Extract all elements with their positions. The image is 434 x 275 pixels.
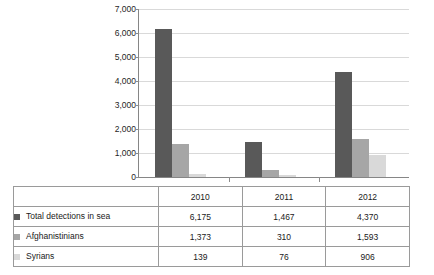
legend-entry-1: Total detections in sea: [14, 207, 159, 227]
bar-2011-series1: [245, 142, 262, 177]
y-axis-tick-label: 6,000: [88, 29, 136, 38]
table-corner-cell: [14, 187, 159, 207]
table-cell: 1,467: [242, 207, 326, 227]
table-body: Total detections in sea6,1751,4674,370Af…: [14, 207, 410, 267]
legend-swatch-icon: [14, 254, 20, 260]
table-column-header-2011: 2011: [242, 187, 326, 207]
bar-2010-series3: [189, 174, 206, 177]
y-axis-tick-label: 2,000: [88, 125, 136, 134]
table-cell: 1,373: [158, 227, 242, 247]
legend-entry-3: Syrians: [14, 247, 159, 267]
table-cell: 310: [242, 227, 326, 247]
bar-group-2010: [139, 9, 229, 177]
bar-2012-series2: [352, 139, 369, 177]
table-column-header-2012: 2012: [326, 187, 410, 207]
category-separator: [319, 177, 320, 182]
table-column-header-2010: 2010: [158, 187, 242, 207]
bar-2010-series2: [172, 144, 189, 177]
chart-figure: 01,0002,0003,0004,0005,0006,0007,000 201…: [0, 0, 434, 275]
bar-2011-series2: [262, 170, 279, 177]
legend-swatch-icon: [14, 214, 20, 220]
legend-label: Afghanistinians: [26, 231, 84, 241]
bar-2012-series3: [369, 155, 386, 177]
legend-swatch-icon: [14, 234, 20, 240]
category-separator: [229, 177, 230, 182]
table-row: Syrians13976906: [14, 247, 410, 267]
y-axis-tick-label: 5,000: [88, 53, 136, 62]
y-axis-tick-label: 0: [88, 173, 136, 182]
bar-group-2011: [229, 9, 319, 177]
legend-entry-2: Afghanistinians: [14, 227, 159, 247]
bar-2011-series3: [279, 175, 296, 177]
bar-2012-series1: [335, 72, 352, 177]
y-axis-tick-label: 1,000: [88, 149, 136, 158]
table-row: Total detections in sea6,1751,4674,370: [14, 207, 410, 227]
plot-area: [138, 9, 409, 178]
table-cell: 6,175: [158, 207, 242, 227]
table-cell: 139: [158, 247, 242, 267]
y-axis-tick-label: 3,000: [88, 101, 136, 110]
legend-label: Syrians: [26, 251, 54, 261]
table-cell: 4,370: [326, 207, 410, 227]
table-cell: 1,593: [326, 227, 410, 247]
table-header-row: 201020112012: [14, 187, 410, 207]
y-axis-tickmark: [136, 177, 139, 178]
bar-group-2012: [319, 9, 409, 177]
table-cell: 906: [326, 247, 410, 267]
plot-region: 01,0002,0003,0004,0005,0006,0007,000: [0, 0, 434, 186]
legend-label: Total detections in sea: [26, 211, 110, 221]
y-axis: 01,0002,0003,0004,0005,0006,0007,000: [88, 9, 136, 177]
y-axis-tick-label: 7,000: [88, 5, 136, 14]
table-cell: 76: [242, 247, 326, 267]
table-row: Afghanistinians1,3733101,593: [14, 227, 410, 247]
bar-2010-series1: [155, 29, 172, 177]
y-axis-tick-label: 4,000: [88, 77, 136, 86]
data-table: 201020112012 Total detections in sea6,17…: [13, 186, 410, 267]
